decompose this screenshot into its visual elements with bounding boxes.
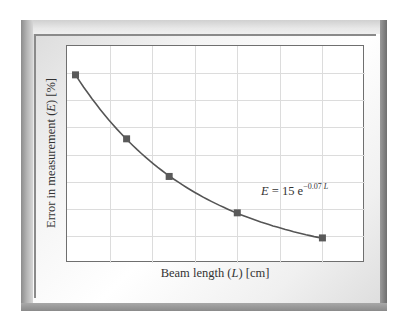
x-axis-variable: L: [231, 266, 238, 280]
frame-bevel-left: [21, 20, 33, 311]
fit-curve: [76, 75, 323, 239]
y-axis-label-text: Error in measurement (: [44, 112, 58, 228]
x-axis-unit: ) [cm]: [238, 266, 269, 280]
equation-annotation: E = 15 e−0.07 L: [261, 183, 328, 199]
data-point-marker: [319, 234, 326, 241]
y-axis-label: Error in measurement (E) [%]: [44, 78, 59, 228]
y-axis-unit: ) [%]: [44, 78, 58, 104]
equation-body: = 15 e: [269, 184, 303, 198]
equation-exponent: −0.07 L: [303, 182, 328, 191]
frame-bevel-right: [380, 20, 387, 311]
equation-exponent-value: −0.07: [303, 182, 324, 191]
data-point-marker: [166, 173, 173, 180]
data-point-marker: [72, 71, 79, 78]
frame-bevel-bottom: [21, 303, 387, 311]
equation-lhs: E: [261, 184, 269, 198]
data-point-marker: [123, 135, 130, 142]
y-axis-variable: E: [44, 104, 58, 112]
equation-exponent-variable: L: [324, 182, 328, 191]
x-axis-label: Beam length (L) [cm]: [161, 266, 270, 281]
data-point-marker: [234, 209, 241, 216]
chart-canvas: [67, 46, 365, 263]
plot-area: [66, 45, 364, 262]
x-axis-label-text: Beam length (: [161, 266, 232, 280]
frame-bevel-top: [21, 20, 387, 34]
